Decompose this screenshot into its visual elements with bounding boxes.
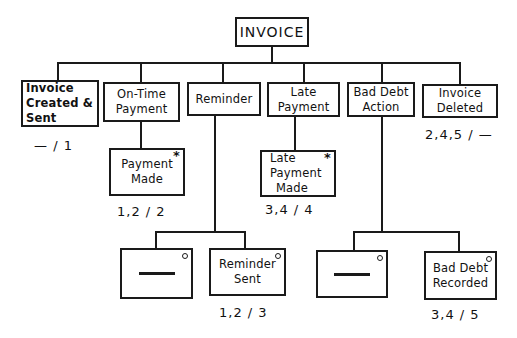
node-label: Made <box>131 172 163 187</box>
connector-bad-debt-null <box>353 231 355 250</box>
connector-bad-debt-down <box>381 116 383 233</box>
asterisk-marker-icon: * <box>173 148 180 163</box>
connector-invoice-created <box>57 62 59 80</box>
node-label: Payment <box>121 157 173 172</box>
label-invoice-deleted: 2,4,5 / — <box>425 127 493 142</box>
node-payment-made: * Payment Made <box>109 148 185 196</box>
node-bad-debt-null <box>316 250 388 298</box>
node-label: Payment <box>116 102 168 117</box>
null-component-dash <box>139 272 175 275</box>
connector-late-payment <box>303 62 305 82</box>
node-label: Action <box>362 100 399 115</box>
connector-reminder-bar <box>155 231 245 233</box>
selection-marker-icon <box>275 253 281 259</box>
node-label: Invoice <box>439 86 482 101</box>
node-invoice-deleted: Invoice Deleted <box>422 84 498 118</box>
node-label: Created & <box>26 96 93 111</box>
node-label: Payment <box>278 100 330 115</box>
node-label: On-Time <box>117 87 166 102</box>
connector-on-time <box>140 62 142 82</box>
connector-reminder <box>222 62 224 82</box>
node-label: Made <box>270 181 308 196</box>
node-label: Recorded <box>433 276 489 291</box>
node-label: INVOICE <box>240 25 305 40</box>
node-late-payment: Late Payment <box>267 82 340 117</box>
label-bad-debt-recorded: 3,4 / 5 <box>431 307 480 322</box>
node-label: Sent <box>26 111 57 126</box>
node-bad-debt-recorded: Bad Debt Recorded <box>424 251 497 300</box>
connector-bad-debt-bar <box>353 231 459 233</box>
node-bad-debt-action: Bad Debt Action <box>347 82 415 117</box>
connector-bad-debt-recorded <box>458 231 460 251</box>
connector-invoice-deleted <box>459 62 461 84</box>
selection-marker-icon <box>182 253 188 259</box>
node-label: Bad Debt <box>433 261 488 276</box>
connector-reminder-down <box>214 115 216 233</box>
connector-reminder-sent <box>244 231 246 248</box>
selection-marker-icon <box>486 256 492 262</box>
connector-late-payment-made <box>294 116 296 150</box>
node-label: Deleted <box>437 101 484 116</box>
node-late-payment-made: * Late Payment Made <box>260 150 336 197</box>
node-label: Payment <box>270 166 322 181</box>
node-label: Reminder <box>219 257 276 272</box>
label-reminder-sent: 1,2 / 3 <box>219 305 268 320</box>
label-payment-made: 1,2 / 2 <box>117 204 166 219</box>
node-reminder-null <box>120 248 193 299</box>
connector-reminder-null <box>155 231 157 248</box>
connector-bad-debt <box>381 62 383 82</box>
node-reminder-sent: Reminder Sent <box>209 248 286 296</box>
node-on-time-payment: On-Time Payment <box>103 82 180 122</box>
null-component-dash <box>334 273 370 276</box>
node-invoice-created-sent: Invoice Created & Sent <box>21 80 99 127</box>
label-invoice-created: — / 1 <box>34 138 73 153</box>
connector-level1-bar <box>57 62 461 64</box>
connector-payment-made <box>140 121 142 148</box>
node-reminder: Reminder <box>187 82 261 116</box>
node-label: Late <box>291 85 317 100</box>
node-label: Bad Debt <box>353 85 408 100</box>
asterisk-marker-icon: * <box>324 150 331 165</box>
selection-marker-icon <box>377 255 383 261</box>
label-late-payment-made: 3,4 / 4 <box>265 202 314 217</box>
node-invoice: INVOICE <box>235 17 309 47</box>
node-label: Invoice <box>26 81 74 96</box>
node-label: Sent <box>234 272 261 287</box>
node-label: Late <box>270 151 296 166</box>
node-label: Reminder <box>196 92 253 107</box>
